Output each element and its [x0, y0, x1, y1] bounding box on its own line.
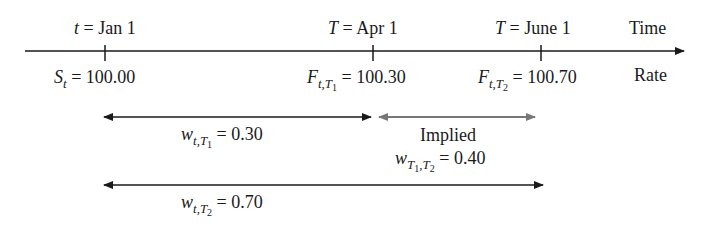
span-label-t-T2: wt,T2 = 0.70: [181, 193, 263, 213]
span-label-t-T1: wt,T1 = 0.30: [181, 125, 263, 145]
rate-label-forward-T2: Ft,T2 = 100.70: [478, 68, 577, 88]
span-caption-implied: Implied: [420, 126, 476, 144]
date-label-jun1: T = June 1: [495, 19, 571, 37]
axis-label-rate: Rate: [634, 66, 667, 84]
axis-label-time: Time: [629, 19, 666, 37]
time-axis: [25, 45, 684, 61]
rate-label-forward-T1: Ft,T1 = 100.30: [307, 68, 406, 88]
span-label-T1-T2: wT1,T2 = 0.40: [395, 149, 485, 169]
rate-label-spot: St = 100.00: [54, 68, 135, 86]
date-label-apr1: T = Apr 1: [328, 19, 398, 37]
date-label-jan1: t = Jan 1: [74, 19, 136, 37]
